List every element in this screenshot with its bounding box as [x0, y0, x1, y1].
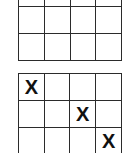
board-row: X: [19, 74, 122, 101]
board-row: X: [19, 101, 122, 128]
board-cell[interactable]: [70, 34, 96, 61]
board-cell[interactable]: [19, 7, 45, 34]
board-cell[interactable]: [96, 101, 122, 128]
board-cell[interactable]: [44, 74, 70, 101]
board-cell[interactable]: [70, 128, 96, 154]
top-board: [18, 0, 122, 61]
board-cell[interactable]: [44, 128, 70, 154]
board-cell[interactable]: [96, 34, 122, 61]
board-cell[interactable]: [70, 7, 96, 34]
board-cell[interactable]: X: [70, 101, 96, 128]
board-cell[interactable]: [19, 101, 45, 128]
bottom-board: X X X: [18, 73, 122, 153]
board-cell[interactable]: [96, 74, 122, 101]
board-row: [19, 7, 122, 34]
board-row: [19, 34, 122, 61]
board-cell[interactable]: [19, 34, 45, 61]
board-cell[interactable]: [44, 101, 70, 128]
board-row: X: [19, 128, 122, 154]
board-cell[interactable]: [70, 74, 96, 101]
board-cell[interactable]: [96, 7, 122, 34]
board-cell[interactable]: X: [96, 128, 122, 154]
board-cell[interactable]: [44, 34, 70, 61]
board-cell[interactable]: [44, 7, 70, 34]
board-cell[interactable]: [19, 128, 45, 154]
board-cell[interactable]: X: [19, 74, 45, 101]
